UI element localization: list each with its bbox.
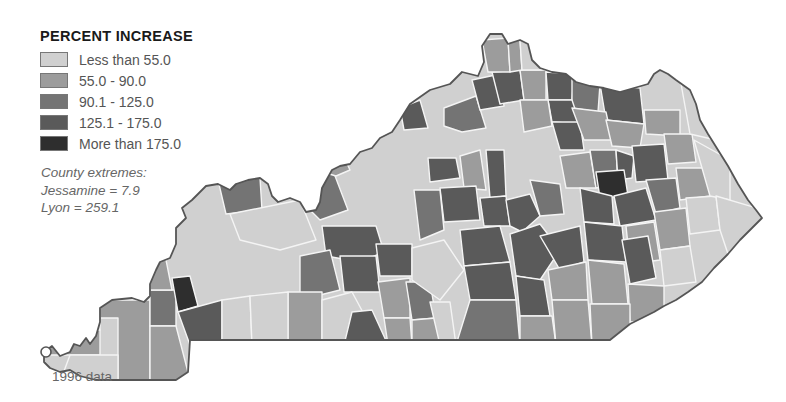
legend-swatch [40,115,68,130]
county[interactable] [428,158,460,182]
county[interactable] [584,222,626,262]
county[interactable] [660,246,696,286]
county[interactable] [148,250,172,290]
county[interactable] [606,120,644,148]
legend-swatch [40,52,68,67]
county[interactable] [516,276,550,316]
county[interactable] [632,144,668,182]
legend-label: 55.0 - 90.0 [79,73,146,89]
county[interactable] [486,150,506,198]
county[interactable] [654,208,690,250]
county[interactable] [520,70,546,100]
county[interactable] [464,262,516,300]
county[interactable] [384,318,412,345]
source-note: 1996 data [52,369,112,384]
extremes-max: Lyon = 259.1 [41,199,147,217]
legend-title: PERCENT INCREASE [40,28,193,44]
legend-item-gt175: More than 175.0 [40,133,193,154]
county[interactable] [150,290,176,326]
legend-swatch [40,94,68,109]
county[interactable] [440,186,480,222]
legend-swatch [40,73,68,88]
county[interactable] [414,190,444,240]
county[interactable] [340,256,380,292]
county[interactable] [572,78,600,112]
extremes-heading: County extremes: [41,164,147,182]
county[interactable] [250,292,288,345]
county[interactable] [588,260,628,304]
county[interactable] [520,100,552,132]
legend-item-125-175: 125.1 - 175.0 [40,112,193,133]
county[interactable] [378,278,410,318]
county-extremes: County extremes: Jessamine = 7.9 Lyon = … [41,164,147,217]
county[interactable] [288,292,322,345]
legend-label: More than 175.0 [79,136,181,152]
county[interactable] [376,244,412,276]
legend-item-lt55: Less than 55.0 [40,49,193,70]
county[interactable] [552,300,592,345]
river-loop [41,347,51,357]
legend-label: 125.1 - 175.0 [79,115,162,131]
county[interactable] [664,134,696,164]
county[interactable] [316,140,350,176]
legend: PERCENT INCREASE Less than 55.0 55.0 - 9… [40,28,193,154]
legend-label: Less than 55.0 [79,52,171,68]
county[interactable] [686,196,720,234]
legend-item-55-90: 55.0 - 90.0 [40,70,193,91]
extremes-min: Jessamine = 7.9 [41,182,147,200]
county[interactable] [644,110,680,136]
legend-item-90-125: 90.1 - 125.0 [40,91,193,112]
county[interactable] [40,296,100,330]
legend-label: 90.1 - 125.0 [79,94,154,110]
legend-swatch [40,136,68,151]
county[interactable] [222,296,252,345]
